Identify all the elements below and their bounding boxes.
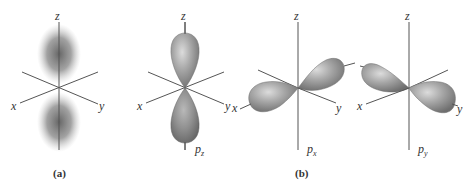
pz-upper-lobe bbox=[171, 33, 199, 88]
y-axis-label: y bbox=[98, 99, 105, 113]
py-back-lobe bbox=[362, 64, 409, 92]
x-axis-front bbox=[240, 104, 251, 109]
panel-a-label: (a) bbox=[53, 167, 66, 180]
x-axis-label: x bbox=[10, 99, 17, 113]
pz-orbital: z x y pz bbox=[136, 9, 231, 158]
x-axis-label: x bbox=[356, 99, 363, 113]
z-axis-label: z bbox=[54, 9, 60, 23]
y-axis-label: y bbox=[335, 101, 342, 115]
y-axis-label: y bbox=[456, 102, 463, 116]
z-axis-label: z bbox=[293, 9, 299, 23]
x-axis-label: x bbox=[136, 99, 143, 113]
x-axis-label: x bbox=[231, 101, 238, 115]
x-axis-back bbox=[344, 63, 355, 66]
y-axis-label: y bbox=[224, 99, 231, 113]
pz-lower-lobe bbox=[171, 88, 199, 143]
px-orbital-label: px bbox=[306, 142, 317, 158]
p-orbitals-figure: z x y (a) z x y pz z x y px (b) bbox=[0, 0, 476, 186]
px-back-lobe bbox=[298, 58, 344, 90]
px-orbital: z x y px bbox=[231, 9, 355, 158]
px-front-lobe bbox=[249, 81, 298, 111]
py-front-lobe bbox=[409, 81, 455, 112]
panel-b-label: (b) bbox=[295, 167, 309, 180]
panel-a-density-cloud: z x y bbox=[10, 9, 105, 152]
z-axis-label: z bbox=[180, 9, 186, 23]
py-orbital-label: py bbox=[417, 142, 428, 158]
py-orbital: z x y py bbox=[356, 9, 463, 158]
pz-orbital-label: pz bbox=[194, 142, 205, 158]
z-axis-label: z bbox=[404, 9, 410, 23]
